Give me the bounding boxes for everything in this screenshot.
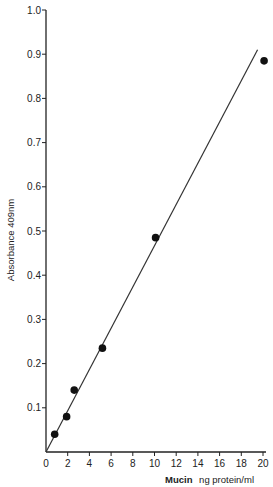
data-point — [99, 344, 107, 352]
y-tick-label: 0.3 — [27, 314, 41, 325]
x-tick-label: 18 — [236, 458, 248, 469]
chart: 0.10.20.30.40.50.60.70.80.91.0 024681012… — [0, 0, 273, 487]
y-tick-label: 0.5 — [27, 226, 41, 237]
y-tick-label: 0.4 — [27, 270, 41, 281]
x-tick-label: 12 — [171, 458, 183, 469]
data-point — [51, 431, 59, 439]
y-tick-label: 0.1 — [27, 402, 41, 413]
x-axis: 02468101214161820 — [43, 452, 269, 469]
x-tick-label: 6 — [108, 458, 114, 469]
fit-line — [46, 50, 258, 452]
y-tick-label: 0.7 — [27, 137, 41, 148]
x-tick-label: 16 — [214, 458, 226, 469]
x-tick-label: 2 — [65, 458, 71, 469]
y-tick-label: 1.0 — [27, 5, 41, 16]
x-tick-label: 0 — [43, 458, 49, 469]
data-point — [152, 234, 160, 242]
x-tick-label: 10 — [149, 458, 161, 469]
x-axis-title-rest: ng protein/ml — [199, 474, 254, 485]
x-tick-label: 4 — [87, 458, 93, 469]
x-tick-label: 14 — [192, 458, 204, 469]
x-tick-label: 20 — [257, 458, 269, 469]
y-tick-label: 0.2 — [27, 358, 41, 369]
x-tick-label: 8 — [130, 458, 136, 469]
data-point — [70, 386, 78, 394]
y-tick-label: 0.9 — [27, 49, 41, 60]
y-axis-title: Absorbance 409nm — [5, 199, 16, 281]
x-axis-title: Mucin ng protein/ml — [165, 474, 254, 485]
x-axis-title-bold: Mucin — [165, 474, 193, 485]
data-point — [260, 57, 268, 65]
data-point — [63, 413, 71, 421]
y-tick-label: 0.6 — [27, 181, 41, 192]
y-axis: 0.10.20.30.40.50.60.70.80.91.0 — [27, 5, 46, 453]
y-tick-label: 0.8 — [27, 93, 41, 104]
